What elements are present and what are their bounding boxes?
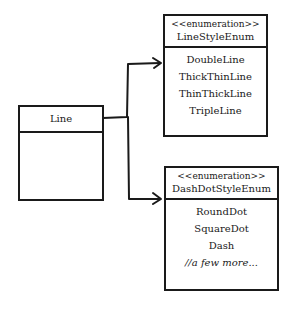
enum-value: ThinThickLine xyxy=(165,85,266,102)
class-name: LineStyleEnum xyxy=(165,30,266,46)
class-linestyleenum: <<enumeration>> LineStyleEnum DoubleLine… xyxy=(163,14,268,137)
enum-value: TripleLine xyxy=(165,102,266,119)
class-header: <<enumeration>> DashDotStyleEnum xyxy=(166,168,277,200)
enum-values: RoundDot SquareDot Dash //a few more... xyxy=(166,200,277,271)
enum-value: DoubleLine xyxy=(165,51,266,68)
class-header: <<enumeration>> LineStyleEnum xyxy=(165,16,266,48)
enum-values: DoubleLine ThickThinLine ThinThickLine T… xyxy=(165,48,266,119)
enum-value: SquareDot xyxy=(166,220,277,237)
class-line: Line xyxy=(18,105,104,201)
arrow-to-linestyleenum xyxy=(103,63,160,118)
arrow-to-dashdotstyleenum xyxy=(128,117,160,199)
stereotype-label: <<enumeration>> xyxy=(165,16,266,30)
enum-value: ThickThinLine xyxy=(165,68,266,85)
stereotype-label: <<enumeration>> xyxy=(166,168,277,182)
class-name: DashDotStyleEnum xyxy=(166,182,277,198)
class-dashdotstyleenum: <<enumeration>> DashDotStyleEnum RoundDo… xyxy=(164,166,279,291)
enum-comment: //a few more... xyxy=(166,254,277,271)
enum-value: RoundDot xyxy=(166,203,277,220)
class-name-line: Line xyxy=(20,107,102,133)
enum-value: Dash xyxy=(166,237,277,254)
